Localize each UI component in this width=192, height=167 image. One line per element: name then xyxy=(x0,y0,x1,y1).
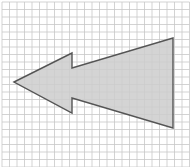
grid-diagram xyxy=(0,0,192,167)
